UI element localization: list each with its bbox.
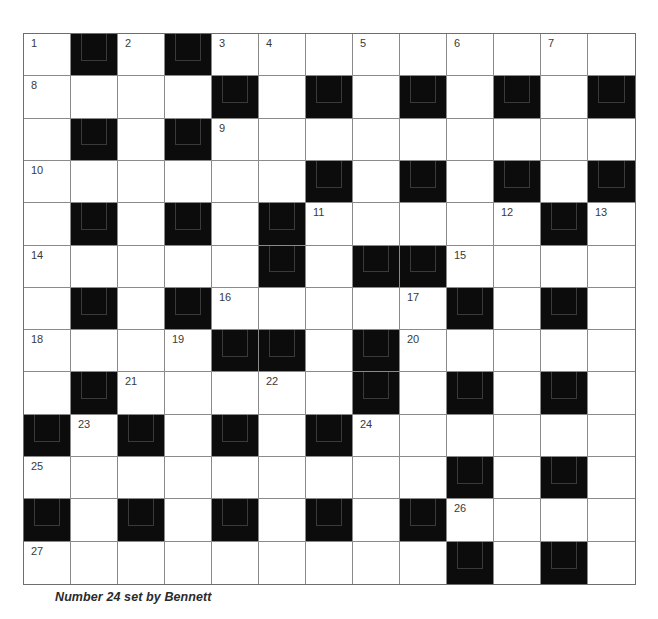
answer-cell[interactable]	[71, 330, 118, 372]
answer-cell[interactable]	[165, 372, 212, 414]
answer-cell[interactable]	[588, 542, 635, 584]
answer-cell[interactable]	[306, 246, 353, 288]
answer-cell[interactable]	[24, 203, 71, 245]
answer-cell[interactable]: 9	[212, 119, 259, 161]
answer-cell[interactable]	[259, 499, 306, 541]
answer-cell[interactable]	[306, 542, 353, 584]
answer-cell[interactable]	[118, 246, 165, 288]
answer-cell[interactable]	[306, 457, 353, 499]
answer-cell[interactable]	[541, 499, 588, 541]
answer-cell[interactable]	[494, 330, 541, 372]
answer-cell[interactable]: 11	[306, 203, 353, 245]
answer-cell[interactable]: 20	[400, 330, 447, 372]
answer-cell[interactable]	[71, 457, 118, 499]
answer-cell[interactable]	[24, 372, 71, 414]
answer-cell[interactable]	[118, 457, 165, 499]
answer-cell[interactable]	[400, 34, 447, 76]
answer-cell[interactable]: 14	[24, 246, 71, 288]
answer-cell[interactable]	[24, 119, 71, 161]
answer-cell[interactable]	[541, 246, 588, 288]
answer-cell[interactable]	[118, 542, 165, 584]
answer-cell[interactable]	[165, 161, 212, 203]
answer-cell[interactable]	[353, 499, 400, 541]
answer-cell[interactable]	[353, 457, 400, 499]
answer-cell[interactable]	[118, 76, 165, 118]
answer-cell[interactable]	[447, 330, 494, 372]
answer-cell[interactable]	[494, 542, 541, 584]
answer-cell[interactable]	[588, 457, 635, 499]
answer-cell[interactable]	[588, 415, 635, 457]
answer-cell[interactable]	[353, 119, 400, 161]
answer-cell[interactable]	[494, 34, 541, 76]
answer-cell[interactable]: 7	[541, 34, 588, 76]
answer-cell[interactable]	[400, 542, 447, 584]
answer-cell[interactable]: 6	[447, 34, 494, 76]
answer-cell[interactable]	[71, 161, 118, 203]
answer-cell[interactable]	[400, 372, 447, 414]
answer-cell[interactable]	[353, 542, 400, 584]
answer-cell[interactable]	[259, 457, 306, 499]
answer-cell[interactable]	[494, 372, 541, 414]
answer-cell[interactable]	[165, 246, 212, 288]
answer-cell[interactable]: 1	[24, 34, 71, 76]
answer-cell[interactable]: 16	[212, 288, 259, 330]
answer-cell[interactable]	[165, 457, 212, 499]
answer-cell[interactable]	[494, 119, 541, 161]
answer-cell[interactable]: 12	[494, 203, 541, 245]
answer-cell[interactable]	[447, 76, 494, 118]
answer-cell[interactable]	[306, 288, 353, 330]
answer-cell[interactable]	[306, 34, 353, 76]
answer-cell[interactable]: 17	[400, 288, 447, 330]
answer-cell[interactable]: 18	[24, 330, 71, 372]
answer-cell[interactable]	[541, 330, 588, 372]
answer-cell[interactable]	[447, 161, 494, 203]
answer-cell[interactable]	[306, 372, 353, 414]
answer-cell[interactable]	[212, 246, 259, 288]
answer-cell[interactable]	[353, 288, 400, 330]
answer-cell[interactable]	[259, 415, 306, 457]
answer-cell[interactable]	[71, 246, 118, 288]
answer-cell[interactable]	[494, 457, 541, 499]
answer-cell[interactable]: 25	[24, 457, 71, 499]
answer-cell[interactable]: 10	[24, 161, 71, 203]
answer-cell[interactable]: 15	[447, 246, 494, 288]
answer-cell[interactable]: 3	[212, 34, 259, 76]
answer-cell[interactable]	[118, 330, 165, 372]
answer-cell[interactable]	[588, 372, 635, 414]
answer-cell[interactable]	[165, 76, 212, 118]
answer-cell[interactable]	[400, 203, 447, 245]
answer-cell[interactable]	[306, 330, 353, 372]
answer-cell[interactable]	[71, 76, 118, 118]
answer-cell[interactable]	[400, 119, 447, 161]
answer-cell[interactable]	[447, 415, 494, 457]
answer-cell[interactable]	[588, 34, 635, 76]
answer-cell[interactable]	[447, 119, 494, 161]
answer-cell[interactable]	[541, 76, 588, 118]
answer-cell[interactable]	[541, 161, 588, 203]
answer-cell[interactable]	[165, 499, 212, 541]
answer-cell[interactable]	[118, 161, 165, 203]
answer-cell[interactable]	[588, 499, 635, 541]
answer-cell[interactable]	[212, 203, 259, 245]
answer-cell[interactable]	[588, 246, 635, 288]
answer-cell[interactable]: 8	[24, 76, 71, 118]
answer-cell[interactable]	[306, 119, 353, 161]
answer-cell[interactable]: 4	[259, 34, 306, 76]
answer-cell[interactable]	[165, 415, 212, 457]
answer-cell[interactable]	[259, 288, 306, 330]
answer-cell[interactable]	[494, 499, 541, 541]
answer-cell[interactable]: 13	[588, 203, 635, 245]
answer-cell[interactable]	[541, 415, 588, 457]
answer-cell[interactable]	[400, 457, 447, 499]
answer-cell[interactable]	[71, 499, 118, 541]
answer-cell[interactable]	[212, 161, 259, 203]
answer-cell[interactable]	[165, 542, 212, 584]
answer-cell[interactable]: 5	[353, 34, 400, 76]
answer-cell[interactable]: 24	[353, 415, 400, 457]
answer-cell[interactable]: 19	[165, 330, 212, 372]
answer-cell[interactable]: 2	[118, 34, 165, 76]
answer-cell[interactable]	[118, 288, 165, 330]
answer-cell[interactable]	[259, 542, 306, 584]
answer-cell[interactable]	[400, 415, 447, 457]
answer-cell[interactable]	[447, 203, 494, 245]
